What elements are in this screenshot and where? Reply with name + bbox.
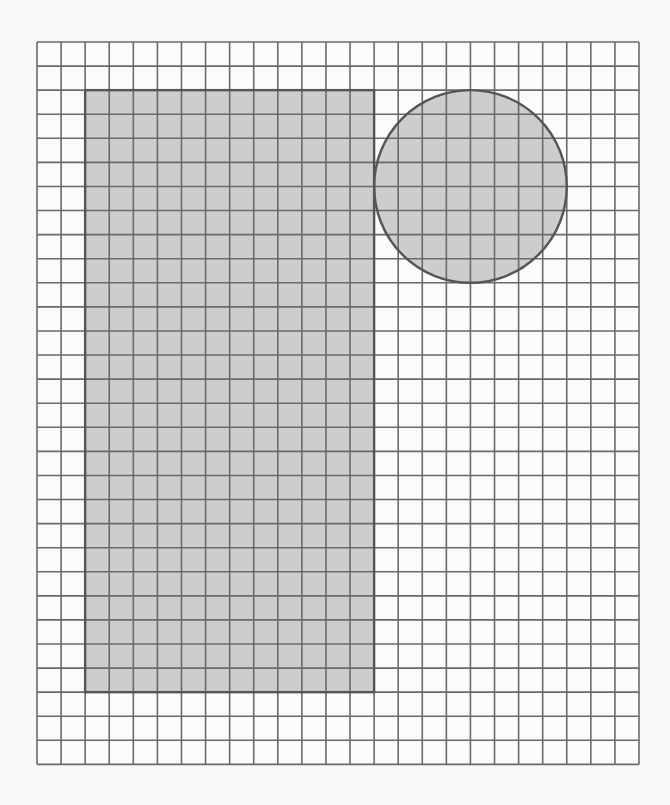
diagram-canvas — [0, 0, 670, 805]
grid-diagram — [0, 0, 670, 805]
